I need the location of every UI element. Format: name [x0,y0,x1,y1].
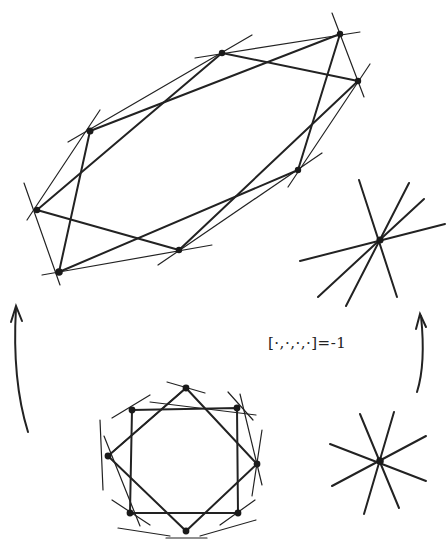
left-arrow [11,306,28,432]
diagram-canvas [0,0,448,548]
cross-ratio-label: [·,·,·,·]=-1 [268,334,346,352]
top-figure [24,13,370,285]
upper-star [300,180,445,306]
lower-star [330,412,426,514]
right-arrow [416,314,426,392]
top-figure-vertices [34,31,361,276]
